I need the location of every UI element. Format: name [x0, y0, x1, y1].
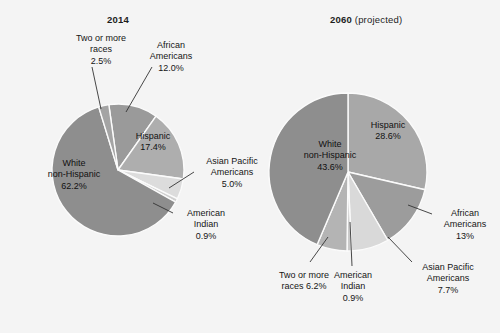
title-qualifier: (projected): [352, 14, 402, 25]
chart-2060: [269, 93, 432, 266]
slice-label-white-non-hispanic: White non-Hispanic 62.2%: [36, 158, 112, 192]
chart-2060-title: 2060 (projected): [330, 14, 402, 25]
slice-label-african-americans: African Americans 13%: [434, 208, 496, 242]
slice-label-asian-pacific-americans: Asian Pacific Americans 7.7%: [410, 262, 486, 296]
leader-asian-pacific: [388, 237, 412, 262]
slice-label-white-non-hispanic: White non-Hispanic 43.6%: [290, 139, 370, 173]
leader-two-or-more-races: [92, 67, 101, 109]
slice-label-american-indian: American Indian 0.9%: [175, 208, 237, 242]
title-year: 2060: [330, 14, 352, 25]
figure-canvas: 2014Two or more races 2.5%African Americ…: [0, 0, 500, 333]
slice-label-two-or-more-races: Two or more races 2.5%: [62, 33, 140, 67]
slice-label-two-or-more-races: Two or more races 6.2%: [266, 270, 342, 293]
slice-label-hispanic: Hispanic 17.4%: [125, 131, 181, 154]
slice-label-asian-pacific-americans: Asian Pacific Americans 5.0%: [196, 156, 268, 190]
title-year: 2014: [107, 14, 129, 25]
chart-2014-title: 2014: [107, 14, 129, 25]
slice-label-african-americans: African Americans 12.0%: [140, 40, 202, 74]
